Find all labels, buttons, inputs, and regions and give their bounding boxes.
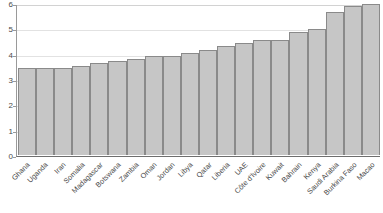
bar[interactable] bbox=[108, 61, 126, 155]
bar[interactable] bbox=[326, 12, 344, 155]
bar-slot bbox=[181, 5, 199, 155]
bar-slot bbox=[235, 5, 253, 155]
bar-slot bbox=[199, 5, 217, 155]
bar-slot bbox=[163, 5, 181, 155]
x-tick-label: Libya bbox=[177, 161, 195, 179]
x-label-slot: Botswana bbox=[108, 159, 126, 213]
bar-slot bbox=[362, 5, 380, 155]
x-label-slot: Liberia bbox=[217, 159, 235, 213]
x-label-slot: Qatar bbox=[199, 159, 217, 213]
bar-slot bbox=[217, 5, 235, 155]
x-label-slot: Jordan bbox=[162, 159, 180, 213]
x-label-slot: Kuwait bbox=[271, 159, 289, 213]
bar-slot bbox=[289, 5, 307, 155]
bar-series bbox=[18, 5, 380, 155]
x-label-slot: Oman bbox=[144, 159, 162, 213]
bar[interactable] bbox=[344, 6, 362, 155]
x-label-slot: Macao bbox=[362, 159, 380, 213]
x-label-slot: Uganda bbox=[35, 159, 53, 213]
bar[interactable] bbox=[362, 4, 380, 155]
bar-slot bbox=[36, 5, 54, 155]
x-label-slot: Ghana bbox=[17, 159, 35, 213]
plot-area bbox=[16, 5, 380, 157]
x-label-slot: Libya bbox=[180, 159, 198, 213]
bar[interactable] bbox=[145, 56, 163, 155]
x-label-slot: Iran bbox=[53, 159, 71, 213]
bar-slot bbox=[72, 5, 90, 155]
x-label-slot: Burkina Faso bbox=[344, 159, 362, 213]
x-axis-labels: GhanaUgandaIranSomaliaMadagascarBotswana… bbox=[17, 159, 380, 213]
y-axis: 0123456 bbox=[0, 0, 16, 162]
bar[interactable] bbox=[36, 68, 54, 155]
x-label-slot: Bahrain bbox=[289, 159, 307, 213]
bar[interactable] bbox=[127, 59, 145, 155]
bar[interactable] bbox=[181, 53, 199, 155]
bar[interactable] bbox=[90, 63, 108, 155]
bar[interactable] bbox=[72, 66, 90, 155]
x-label-slot: Zambia bbox=[126, 159, 144, 213]
bar[interactable] bbox=[163, 56, 181, 155]
bar[interactable] bbox=[308, 29, 326, 155]
bar-slot bbox=[271, 5, 289, 155]
bar-slot bbox=[127, 5, 145, 155]
bar[interactable] bbox=[54, 68, 72, 155]
bar-slot bbox=[326, 5, 344, 155]
bar[interactable] bbox=[289, 32, 307, 155]
bar-slot bbox=[90, 5, 108, 155]
bar-slot bbox=[54, 5, 72, 155]
bar[interactable] bbox=[253, 40, 271, 155]
bar[interactable] bbox=[199, 50, 217, 155]
bar[interactable] bbox=[271, 40, 289, 155]
bar-slot bbox=[145, 5, 163, 155]
y-tick-mark bbox=[13, 157, 16, 158]
bar-slot bbox=[308, 5, 326, 155]
bar[interactable] bbox=[18, 68, 36, 155]
bar[interactable] bbox=[217, 46, 235, 155]
bar-slot bbox=[253, 5, 271, 155]
bar-slot bbox=[18, 5, 36, 155]
x-label-slot: Côte d'Ivoire bbox=[253, 159, 271, 213]
bar[interactable] bbox=[235, 43, 253, 155]
bar-chart: 0123456 GhanaUgandaIranSomaliaMadagascar… bbox=[0, 0, 383, 213]
bar-slot bbox=[108, 5, 126, 155]
bar-slot bbox=[344, 5, 362, 155]
